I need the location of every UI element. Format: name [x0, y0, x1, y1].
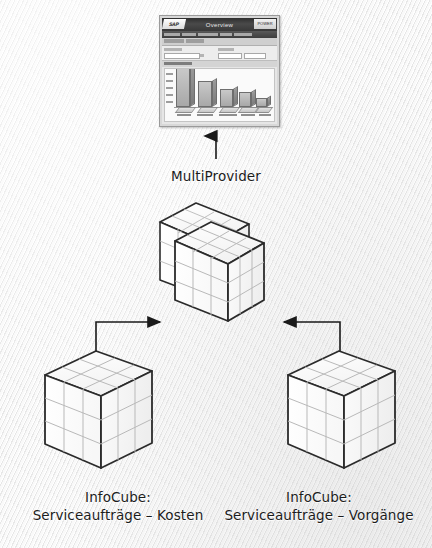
- y-tick: [166, 94, 173, 96]
- nav-item: [182, 33, 196, 36]
- report-tab-strip: [162, 38, 277, 46]
- multiprovider-cube: [175, 222, 264, 321]
- arrow-right-infocube-to-multiprovider: [284, 322, 340, 356]
- infocube-left-caption-line2: Serviceaufträge – Kosten: [10, 506, 226, 524]
- filter-icon: [200, 54, 204, 57]
- report-thumbnail-inner: SAP Overview POWER: [162, 18, 277, 124]
- chart-bar-side: [233, 86, 238, 107]
- infocube-left-caption-line1: InfoCube:: [10, 488, 226, 506]
- y-tick: [166, 101, 173, 103]
- x-tick-label: [241, 114, 255, 116]
- chart-bar-side: [212, 78, 217, 107]
- chart-bar-face: [220, 89, 233, 107]
- chart-x-axis: [167, 112, 272, 120]
- nav-item: [234, 33, 252, 36]
- y-tick: [166, 87, 173, 89]
- filter-label: [164, 48, 182, 51]
- infocube-right-caption-line2: Serviceaufträge – Vorgänge: [206, 506, 432, 524]
- tab-item: [164, 39, 184, 43]
- filter-input: [164, 53, 200, 59]
- y-tick: [166, 73, 173, 75]
- multiprovider-caption-text: MultiProvider: [116, 167, 316, 185]
- report-filter-row: [162, 46, 277, 61]
- nav-item: [220, 33, 232, 36]
- x-tick-label: [219, 114, 237, 116]
- x-tick-label: [259, 114, 271, 116]
- arrow-left-infocube-to-multiprovider: [96, 322, 160, 356]
- infocube-right-caption: InfoCube: Serviceaufträge – Vorgänge: [206, 488, 432, 524]
- report-header-bar: SAP Overview POWER: [162, 18, 277, 31]
- chart-bar: [176, 68, 190, 107]
- chart-bar-face: [176, 68, 190, 107]
- infocube-right-caption-line1: InfoCube:: [206, 488, 432, 506]
- nav-item: [164, 33, 180, 36]
- chart-bar-face: [256, 98, 267, 107]
- report-section-header: [162, 61, 277, 67]
- report-chart: [164, 68, 275, 122]
- diagram-canvas: SAP Overview POWER: [0, 0, 432, 548]
- chart-bar-face: [198, 81, 212, 107]
- y-tick: [166, 80, 173, 82]
- chart-bar: [198, 81, 212, 107]
- infocube-right: [288, 351, 395, 468]
- x-tick-label: [177, 114, 191, 116]
- report-thumbnail: SAP Overview POWER: [159, 15, 280, 127]
- report-badge: POWER: [254, 19, 276, 29]
- x-tick-label: [197, 114, 213, 116]
- chart-bar: [220, 89, 233, 107]
- nav-item: [198, 33, 218, 36]
- chart-bar: [256, 98, 267, 107]
- infocube-left-caption: InfoCube: Serviceaufträge – Kosten: [10, 488, 226, 524]
- sap-logo: SAP: [162, 19, 186, 29]
- section-header-text: [164, 62, 192, 65]
- chart-bar-face: [239, 92, 251, 107]
- chart-bar: [239, 92, 251, 107]
- infocube-left: [45, 351, 152, 468]
- report-nav-bar: [162, 31, 277, 38]
- chart-bar-side: [190, 68, 195, 107]
- filter-input: [218, 53, 242, 59]
- chart-bar-side: [267, 96, 271, 107]
- filter-input: [244, 53, 266, 59]
- multiprovider-caption: MultiProvider: [116, 167, 316, 185]
- filter-label: [218, 48, 234, 51]
- tab-item: [186, 39, 204, 43]
